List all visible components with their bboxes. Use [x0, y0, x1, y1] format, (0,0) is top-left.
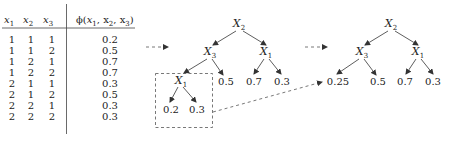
cell-x1: 1 [4, 67, 20, 78]
cell-x1: 2 [4, 100, 20, 111]
cell-x2: 1 [23, 89, 39, 100]
tree1-left-node: X3 [198, 46, 222, 62]
tree2-leaf: 0.3 [419, 76, 447, 87]
cell-x1: 1 [4, 45, 20, 56]
cell-phi: 0.3 [80, 78, 140, 89]
tree1-leaf: 0.3 [183, 104, 211, 115]
cell-phi: 0.5 [80, 45, 140, 56]
cell-x2: 1 [23, 45, 39, 56]
header-x2: x2 [23, 14, 33, 30]
tree1-right-node: X1 [254, 46, 278, 62]
cell-phi: 0.3 [80, 100, 140, 111]
tree1-leaf: 0.7 [240, 76, 268, 87]
tree1-leaf: 0.2 [157, 104, 185, 115]
cell-x3: 1 [44, 34, 60, 45]
cell-phi: 0.5 [80, 89, 140, 100]
tree2-leaf: 0.25 [324, 76, 352, 87]
header-phi: ϕ(x1, x2, x3) [76, 14, 134, 30]
cell-x3: 2 [44, 111, 60, 122]
cell-x2: 2 [23, 111, 39, 122]
tree2-leaf: 0.7 [391, 76, 419, 87]
cell-x2: 2 [23, 56, 39, 67]
cell-x2: 2 [23, 67, 39, 78]
cell-x3: 1 [44, 56, 60, 67]
header-x3: x3 [43, 14, 53, 30]
cell-phi: 0.2 [80, 34, 140, 45]
cell-x2: 1 [23, 78, 39, 89]
cell-x1: 1 [4, 56, 20, 67]
tree2-right-node: X1 [406, 46, 430, 62]
cell-x3: 1 [44, 78, 60, 89]
cell-x1: 2 [4, 89, 20, 100]
cell-phi: 0.7 [80, 67, 140, 78]
tree2-root-node: X2 [379, 18, 403, 34]
cell-x1: 1 [4, 34, 20, 45]
cell-x2: 2 [23, 100, 39, 111]
cell-phi: 0.3 [80, 111, 140, 122]
tree2-leaf: 0.5 [364, 76, 392, 87]
cell-x2: 1 [23, 34, 39, 45]
tree1-subtree-node: X1 [169, 75, 193, 91]
header-x1: x1 [4, 14, 14, 30]
cell-phi: 0.7 [80, 56, 140, 67]
tree1-leaf: 0.3 [268, 76, 296, 87]
cell-x3: 1 [44, 100, 60, 111]
cell-x3: 2 [44, 45, 60, 56]
cell-x1: 2 [4, 111, 20, 122]
tree1-root-node: X2 [227, 18, 251, 34]
tree1-leaf: 0.5 [212, 76, 240, 87]
cell-x3: 2 [44, 67, 60, 78]
cell-x1: 2 [4, 78, 20, 89]
tree2-left-node: X3 [350, 46, 374, 62]
cell-x3: 2 [44, 89, 60, 100]
